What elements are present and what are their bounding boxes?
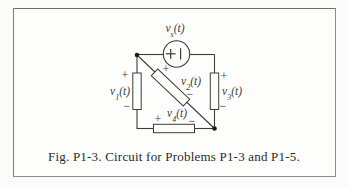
node-dot-top-left xyxy=(135,53,140,58)
v4-minus-sign: − xyxy=(189,115,196,127)
figure-panel: vs(t) + v1(t) − + v2(t) − + v3(t) − + v4… xyxy=(0,0,348,187)
v3-minus-sign: − xyxy=(220,100,227,112)
v1-plus-sign: + xyxy=(122,69,129,81)
resistor-v1-icon xyxy=(133,73,141,110)
v3-plus-sign: + xyxy=(221,70,228,82)
label-v1: v1(t) xyxy=(110,86,130,98)
label-v3: v3(t) xyxy=(222,86,242,98)
v1-minus-sign: − xyxy=(124,100,131,112)
label-v4: v4(t) xyxy=(167,108,187,120)
v4-plus-sign: + xyxy=(155,113,162,125)
label-vs: vs(t) xyxy=(165,23,184,35)
resistor-v3-icon xyxy=(210,73,218,110)
v2-plus-sign: + xyxy=(163,63,170,75)
node-dot-bottom-right xyxy=(212,126,217,131)
v2-minus-sign: − xyxy=(187,88,194,100)
figure-caption: Fig. P1-3. Circuit for Problems P1-3 and… xyxy=(0,150,348,165)
